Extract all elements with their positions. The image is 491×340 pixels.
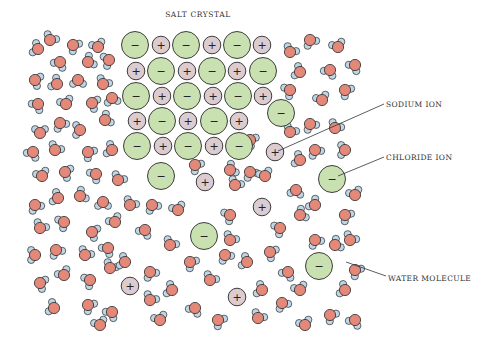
water-molecule [89, 38, 105, 52]
oxygen-atom [146, 199, 157, 210]
water-molecule [73, 122, 86, 139]
water-molecule [124, 196, 140, 211]
water-molecule [305, 195, 320, 210]
chloride-ion: − [191, 223, 218, 250]
water-molecule [32, 126, 49, 139]
oxygen-atom [94, 319, 105, 330]
plus-sign-icon: + [200, 176, 209, 189]
water-molecule [309, 144, 325, 159]
sodium-ion: + [121, 277, 139, 295]
chloride-ion: − [224, 32, 251, 59]
sodium-ion: + [153, 87, 171, 105]
oxygen-atom [294, 284, 305, 295]
chloride-ion: − [201, 108, 228, 135]
chloride-ion: − [148, 163, 175, 190]
water-molecule [185, 302, 201, 317]
plus-sign-icon: + [156, 39, 165, 52]
oxygen-atom [304, 118, 315, 129]
chloride-ion: − [268, 100, 295, 127]
oxygen-atom [244, 166, 255, 177]
oxygen-atom [329, 239, 340, 250]
sodium-ion: + [228, 62, 246, 80]
oxygen-atom [309, 144, 320, 155]
water-molecule [291, 63, 305, 79]
oxygen-atom [316, 94, 327, 105]
plus-sign-icon: + [182, 65, 191, 78]
oxygen-atom [74, 190, 85, 201]
water-molecule [86, 96, 100, 112]
water-molecule [212, 314, 227, 329]
plus-sign-icon: + [209, 140, 218, 153]
water-molecule [81, 274, 96, 290]
water-molecule [276, 297, 292, 312]
minus-sign-icon: − [327, 173, 336, 186]
oxygen-atom [324, 309, 335, 320]
label-chloride-ion: CHLORIDE ION [386, 153, 452, 162]
oxygen-atom [339, 284, 350, 295]
water-molecule [54, 266, 70, 281]
oxygen-atom [309, 234, 320, 245]
plus-sign-icon: + [131, 65, 140, 78]
chloride-ion: − [199, 58, 226, 85]
water-molecule [98, 242, 113, 257]
water-molecule [252, 309, 268, 324]
plus-sign-icon: + [157, 90, 166, 103]
oxygen-atom [339, 144, 350, 155]
water-molecule [28, 247, 41, 264]
oxygen-atom [84, 274, 95, 285]
oxygen-atom [32, 98, 43, 109]
water-molecule [329, 38, 345, 52]
oxygen-atom [139, 224, 150, 235]
sodium-ion: + [205, 137, 223, 155]
minus-sign-icon: − [233, 90, 242, 103]
oxygen-atom [82, 56, 93, 67]
water-molecule [189, 159, 204, 174]
water-molecule [224, 231, 240, 246]
oxygen-atom [224, 209, 235, 220]
sodium-ion: + [228, 288, 246, 306]
oxygen-atom [349, 314, 360, 325]
water-molecule [86, 168, 101, 183]
water-molecule [184, 256, 199, 271]
water-molecule [34, 276, 48, 292]
chloride-ion-labeled: − [319, 166, 346, 193]
oxygen-atom [256, 284, 267, 295]
minus-sign-icon: − [276, 107, 285, 120]
oxygen-atom [224, 164, 235, 175]
chloride-ion: − [123, 83, 150, 110]
oxygen-atom [264, 246, 275, 257]
water-molecule [29, 40, 43, 56]
water-molecule [55, 216, 70, 232]
oxygen-atom [164, 239, 175, 250]
water-molecule [338, 142, 351, 159]
water-molecule [112, 171, 128, 186]
water-molecule [79, 246, 95, 261]
oxygen-atom [212, 314, 223, 325]
water-molecule [204, 271, 220, 286]
plus-sign-icon: + [270, 146, 279, 159]
oxygen-atom [102, 242, 113, 253]
water-molecule [329, 119, 345, 134]
oxygen-atom [294, 209, 305, 220]
water-molecule [253, 281, 267, 297]
water-molecule [271, 222, 286, 238]
oxygen-atom [284, 84, 295, 95]
chloride-leader-line [338, 157, 384, 176]
water-molecule [70, 74, 87, 87]
oxygen-atom [74, 124, 85, 135]
water-molecule [345, 59, 360, 74]
plus-sign-icon: + [258, 90, 267, 103]
water-molecule [34, 219, 50, 234]
diagram-canvas: −+−+−++−+−+−−+−+−++−+−+−+−+−−+−++−−−++ S… [0, 0, 491, 340]
plus-sign-icon: + [125, 280, 134, 293]
oxygen-atom [252, 312, 263, 323]
water-molecule [344, 231, 360, 246]
water-molecule [144, 291, 160, 306]
oxygen-atom [219, 249, 230, 260]
water-molecule [163, 281, 177, 297]
oxygen-atom [144, 294, 155, 305]
oxygen-atom [294, 154, 305, 165]
oxygen-atom [349, 264, 360, 275]
sodium-ion: + [253, 198, 271, 216]
oxygen-atom [52, 192, 63, 203]
